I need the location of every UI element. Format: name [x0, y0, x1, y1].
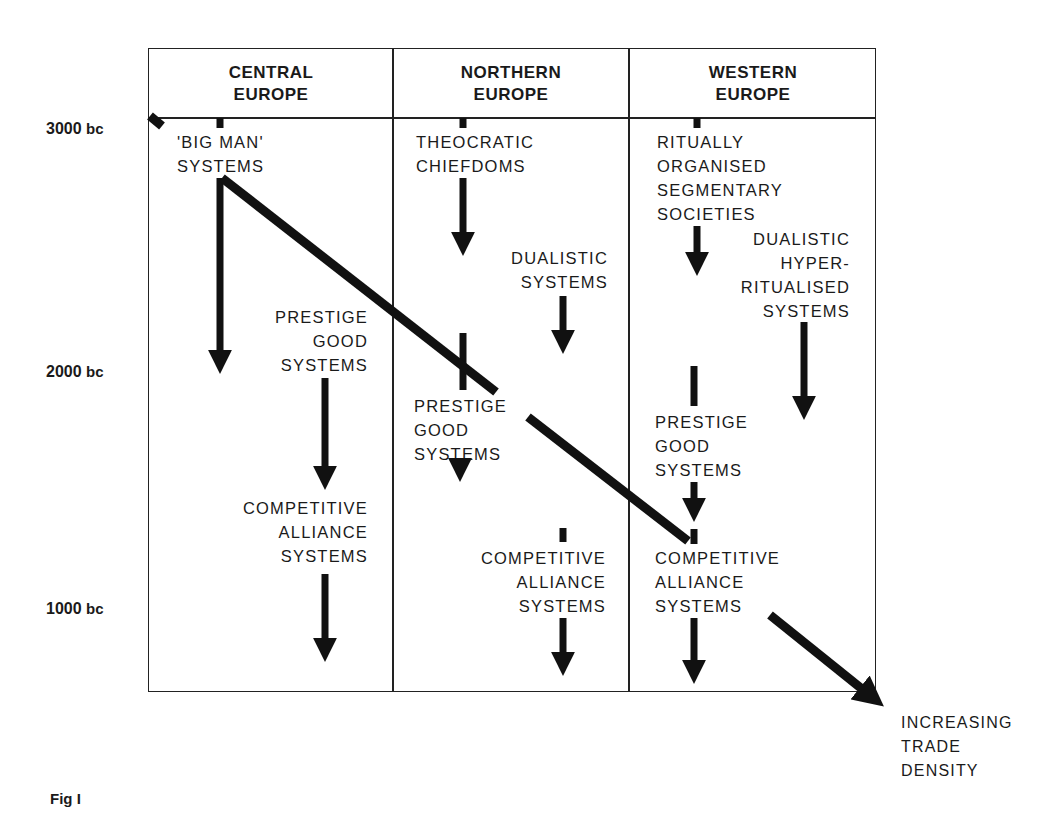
figure-caption: Fig I	[50, 790, 81, 807]
arrows-layer	[0, 0, 1039, 815]
trade-density-arrow	[150, 116, 872, 697]
